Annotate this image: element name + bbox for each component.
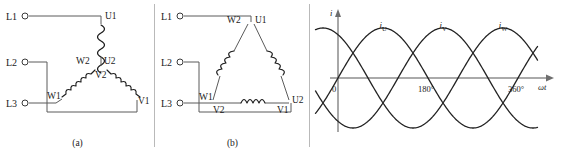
terminal-l1-a[interactable]: [22, 13, 28, 19]
node-label-v2-b: V2: [213, 105, 225, 115]
coil-v-b: [267, 51, 284, 75]
curve-labels: iUiViW: [379, 20, 508, 32]
node-label-v1-a: V1: [138, 96, 150, 106]
node-label-w2-a: W2: [76, 56, 90, 66]
terminal-label-l2-a: L2: [6, 57, 17, 68]
tri-right-lower-b: [281, 76, 289, 100]
terminal-label-l3-a: L3: [6, 98, 17, 109]
node-label-w1-b: W1: [199, 92, 213, 102]
node-label-u2-a: U2: [104, 56, 116, 66]
x-axis-arrow: [546, 75, 554, 82]
terminal-label-l1-b: L1: [161, 11, 172, 22]
curve-label-i-v: iV: [439, 20, 447, 32]
terminal-l3-b[interactable]: [177, 100, 183, 106]
delta-connection-diagram-b: L1 L2 L3 W2 U1 W1 V2 V1 U2 (b): [155, 0, 310, 151]
terminal-label-l2-b: L2: [161, 57, 172, 68]
lead-l1-b: [184, 16, 251, 22]
panel-caption-b: (b): [155, 138, 310, 148]
delta-connection-diagram-a: L1 L2 L3 U1 W2 U2 V2 W1 V1 (a): [0, 0, 155, 151]
terminal-label-l3-b: L3: [161, 98, 172, 109]
y-axis-label: i: [330, 8, 333, 18]
terminal-label-l1-a: L1: [6, 11, 17, 22]
x-tick-0: 0: [332, 84, 336, 94]
x-axis-label: ωt: [538, 82, 547, 92]
terminal-l3-a[interactable]: [22, 100, 28, 106]
x-tick-labels: 0180°360°: [332, 84, 524, 94]
node-label-u1-a: U1: [105, 11, 117, 21]
coil-u-b: [241, 100, 265, 104]
y-axis-arrow: [335, 9, 341, 17]
figure-root: L1 L2 L3 U1 W2 U2 V2 W1 V1 (a): [0, 0, 568, 151]
coil-v-a: [107, 70, 140, 97]
three-phase-current-waveform-chart: i ωt 0180°360° iUiViW: [310, 0, 568, 151]
node-label-u2-b: U2: [292, 95, 304, 105]
lead-l2-a: [29, 62, 47, 112]
tri-left-upper-b: [234, 24, 248, 51]
node-label-w1-a: W1: [47, 91, 61, 101]
x-tick-360: 360°: [508, 84, 524, 94]
curve-label-i-u: iU: [379, 20, 387, 32]
waveform-plot: i ωt 0180°360° iUiViW: [310, 0, 568, 151]
tri-right-upper-b: [254, 24, 267, 51]
node-label-v2-a: V2: [95, 70, 107, 80]
schematic-b: L1 L2 L3 W2 U1 W1 V2 V1 U2: [155, 0, 310, 130]
coil-w-b: [217, 51, 234, 75]
node-label-w2-b: W2: [227, 15, 241, 25]
node-label-u1-b: U1: [255, 15, 267, 25]
x-tick-180: 180°: [418, 84, 434, 94]
lead-l1-a: [29, 16, 101, 24]
terminal-l2-b[interactable]: [177, 59, 183, 65]
terminal-l1-b[interactable]: [177, 13, 183, 19]
coil-w-a: [62, 70, 95, 97]
schematic-a: L1 L2 L3 U1 W2 U2 V2 W1 V1: [0, 0, 155, 130]
panel-caption-a: (a): [0, 138, 155, 148]
curve-label-i-w: iW: [499, 20, 509, 32]
lead-l2-b: [184, 62, 199, 112]
node-label-v1-b: V1: [277, 105, 289, 115]
bottom-rail-a: [47, 100, 137, 112]
terminal-l2-a[interactable]: [22, 59, 28, 65]
tri-left-lower-b: [213, 76, 220, 100]
